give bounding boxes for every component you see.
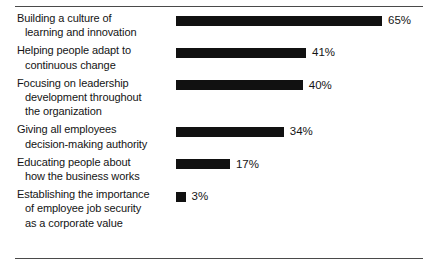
top-rule <box>15 6 423 7</box>
chart-row: Building a culture oflearning and innova… <box>0 11 435 43</box>
bar <box>176 80 303 90</box>
bar <box>176 159 230 169</box>
category-label-line: continuous change <box>17 58 177 72</box>
category-label: Establishing the importanceof employee j… <box>17 187 192 230</box>
category-label-line: decision-making authority <box>17 137 177 151</box>
bar-value-label: 65% <box>388 15 411 26</box>
chart-row: Helping people adapt tocontinuous change… <box>0 43 435 75</box>
bar-group: 3% <box>176 191 208 202</box>
bar-value-label: 17% <box>236 159 259 170</box>
bar-value-label: 34% <box>290 126 313 137</box>
bar <box>176 48 306 58</box>
bar-group: 41% <box>176 47 335 58</box>
category-label: Giving all employeesdecision-making auth… <box>17 122 177 150</box>
chart-row: Establishing the importanceof employee j… <box>0 187 435 234</box>
chart-row: Focusing on leadershipdevelopment throug… <box>0 76 435 123</box>
category-label-line: Building a culture of <box>17 11 177 25</box>
bar-chart: Building a culture oflearning and innova… <box>0 0 435 271</box>
category-label-line: learning and innovation <box>17 25 177 39</box>
category-label-line: development throughout <box>17 90 177 104</box>
category-label: Focusing on leadershipdevelopment throug… <box>17 76 177 119</box>
category-label-line: Focusing on leadership <box>17 76 177 90</box>
bar-value-label: 3% <box>192 191 209 202</box>
category-label-line: Establishing the importance <box>17 187 192 201</box>
bar <box>176 16 382 26</box>
chart-rows: Building a culture oflearning and innova… <box>0 11 435 234</box>
chart-row: Giving all employeesdecision-making auth… <box>0 122 435 154</box>
category-label-line: the organization <box>17 104 177 118</box>
category-label: Educating people abouthow the business w… <box>17 155 177 183</box>
category-label-line: Educating people about <box>17 155 177 169</box>
bar <box>176 192 186 202</box>
category-label-line: of employee job security <box>17 201 192 215</box>
category-label: Helping people adapt tocontinuous change <box>17 43 177 71</box>
bar-group: 65% <box>176 15 411 26</box>
category-label-line: how the business works <box>17 169 177 183</box>
bar-group: 17% <box>176 159 259 170</box>
category-label-line: Giving all employees <box>17 122 177 136</box>
bar-value-label: 41% <box>312 47 335 58</box>
bar-group: 34% <box>176 126 313 137</box>
chart-row: Educating people abouthow the business w… <box>0 155 435 187</box>
bar-group: 40% <box>176 80 332 91</box>
bottom-rule <box>15 258 423 259</box>
category-label-line: as a corporate value <box>17 216 192 230</box>
category-label-line: Helping people adapt to <box>17 43 177 57</box>
category-label: Building a culture oflearning and innova… <box>17 11 177 39</box>
bar-value-label: 40% <box>309 80 332 91</box>
bar <box>176 127 284 137</box>
